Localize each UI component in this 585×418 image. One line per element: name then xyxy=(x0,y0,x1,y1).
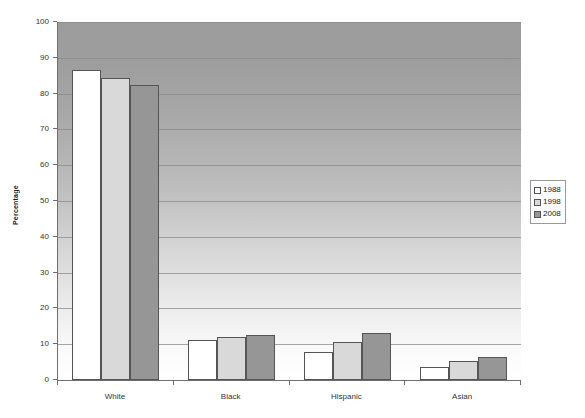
legend-item-2008[interactable]: 2008 xyxy=(534,208,561,220)
bar-hispanic-1998[interactable] xyxy=(333,342,362,380)
plot-area xyxy=(57,22,521,381)
y-axis-tick-label: 100 xyxy=(36,17,49,27)
bar-hispanic-2008[interactable] xyxy=(362,333,391,380)
x-axis-tick-mark xyxy=(520,381,521,385)
legend-label: 1988 xyxy=(543,186,561,194)
bar-group-white xyxy=(72,22,159,380)
x-axis-label-asian: Asian xyxy=(417,392,507,401)
x-axis: WhiteBlackHispanicAsian xyxy=(57,384,520,406)
y-axis: 0102030405060708090100 xyxy=(0,22,57,380)
y-axis-tick-label: 10 xyxy=(40,339,49,349)
bar-hispanic-1988[interactable] xyxy=(304,352,333,380)
legend-swatch-icon xyxy=(534,211,541,218)
bar-black-2008[interactable] xyxy=(246,335,275,380)
x-axis-label-black: Black xyxy=(186,392,276,401)
bar-group-asian xyxy=(420,22,507,380)
y-axis-tick-label: 30 xyxy=(40,268,49,278)
y-axis-tick-label: 70 xyxy=(40,124,49,134)
bar-asian-2008[interactable] xyxy=(478,357,507,380)
chart-legend: 198819982008 xyxy=(530,180,566,224)
bar-chart: Percentage 0102030405060708090100 WhiteB… xyxy=(0,0,585,418)
x-axis-tick-mark xyxy=(57,381,58,385)
bar-white-1998[interactable] xyxy=(101,78,130,380)
y-axis-tick-label: 20 xyxy=(40,303,49,313)
y-axis-tick-label: 60 xyxy=(40,160,49,170)
bar-white-2008[interactable] xyxy=(130,85,159,380)
bar-asian-1998[interactable] xyxy=(449,361,478,380)
y-axis-tick-label: 40 xyxy=(40,232,49,242)
y-axis-tick-label: 90 xyxy=(40,53,49,63)
bar-group-hispanic xyxy=(304,22,391,380)
x-axis-label-hispanic: Hispanic xyxy=(301,392,391,401)
legend-item-1988[interactable]: 1988 xyxy=(534,184,561,196)
bar-asian-1988[interactable] xyxy=(420,367,449,380)
legend-swatch-icon xyxy=(534,199,541,206)
bar-black-1998[interactable] xyxy=(217,337,246,380)
bar-white-1988[interactable] xyxy=(72,70,101,380)
legend-label: 1998 xyxy=(543,198,561,206)
y-axis-tick-label: 0 xyxy=(45,375,49,385)
x-axis-tick-mark xyxy=(404,381,405,385)
bar-group-black xyxy=(188,22,275,380)
legend-swatch-icon xyxy=(534,187,541,194)
legend-label: 2008 xyxy=(543,210,561,218)
y-axis-tick-label: 50 xyxy=(40,196,49,206)
x-axis-tick-mark xyxy=(173,381,174,385)
x-axis-tick-mark xyxy=(289,381,290,385)
y-axis-tick-label: 80 xyxy=(40,89,49,99)
bar-black-1988[interactable] xyxy=(188,340,217,380)
legend-item-1998[interactable]: 1998 xyxy=(534,196,561,208)
x-axis-label-white: White xyxy=(70,392,160,401)
